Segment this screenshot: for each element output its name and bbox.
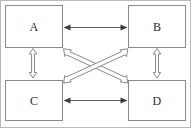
node-a-label: A [30,21,39,33]
node-c-label: C [30,95,38,107]
node-b[interactable]: B [128,5,186,48]
edge-b-d [153,49,160,79]
node-b-label: B [153,21,161,33]
edge-a-c [29,49,36,79]
edge-c-d [64,98,128,104]
edge-a-b [64,25,128,31]
node-a[interactable]: A [5,5,63,48]
node-c[interactable]: C [5,80,63,121]
node-d-label: D [153,95,162,107]
block-diagram: A B C D [0,0,191,128]
node-d[interactable]: D [128,80,186,121]
